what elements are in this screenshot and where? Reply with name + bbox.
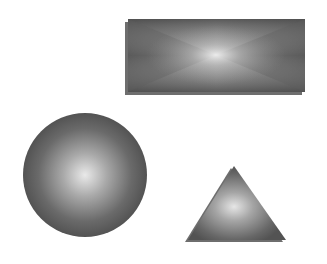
rectangle-glow (146, 25, 286, 85)
triangle-shape (185, 166, 286, 242)
circle-fill (23, 113, 147, 237)
shapes-canvas (0, 0, 327, 264)
rectangle-shape (125, 19, 305, 95)
circle-shape (23, 113, 147, 237)
triangle-fill (188, 166, 286, 240)
